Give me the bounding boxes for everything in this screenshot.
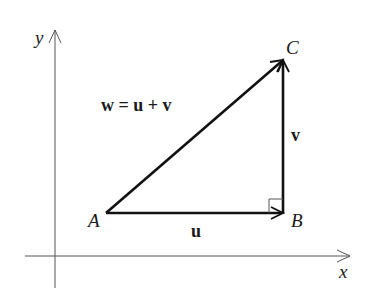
point-b-label: B bbox=[291, 211, 303, 230]
diagram-canvas: y x C A B w = u + v v u bbox=[0, 0, 372, 296]
diagram-svg bbox=[0, 0, 372, 296]
y-axis-label: y bbox=[35, 28, 43, 47]
y-axis bbox=[49, 30, 61, 288]
vector-w-arrow bbox=[106, 60, 283, 213]
point-c-label: C bbox=[286, 38, 299, 57]
point-a-label: A bbox=[88, 211, 100, 230]
vector-u-arrow bbox=[106, 207, 283, 219]
vector-v-label: v bbox=[291, 126, 300, 144]
vector-v-arrow bbox=[277, 60, 289, 214]
right-angle-marker bbox=[269, 199, 283, 213]
x-axis-label: x bbox=[339, 262, 347, 281]
vector-u-label: u bbox=[191, 222, 201, 240]
x-axis bbox=[25, 250, 350, 262]
vector-w-equation: w = u + v bbox=[101, 96, 172, 114]
